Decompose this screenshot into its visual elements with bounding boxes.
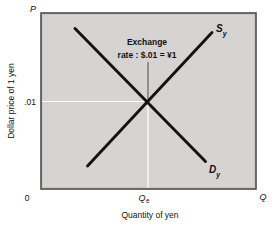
demand-label-letter: D (209, 164, 216, 175)
qe-letter: Q (138, 193, 145, 203)
qe-subscript: e (146, 197, 150, 204)
x-axis-title: Quantity of yen (121, 210, 178, 220)
exchange-rate-chart-figure: P Q 0 .01 Qe Quantity of yen Dollar pric… (0, 0, 274, 236)
y-axis-tick-label: .01 (24, 97, 36, 107)
annotation-line-2: rate : $.01 = ¥1 (118, 50, 177, 60)
x-axis-letter: Q (259, 192, 266, 202)
y-axis-title: Dollar price of 1 yen (6, 63, 16, 139)
x-axis-origin-label: 0 (25, 193, 30, 203)
y-axis-letter: P (30, 4, 36, 14)
annotation-line-1: Exchange (127, 37, 167, 47)
x-axis-equilibrium-tick-label: Qe (138, 193, 150, 204)
chart-canvas: P Q 0 .01 Qe Quantity of yen Dollar pric… (0, 0, 274, 236)
